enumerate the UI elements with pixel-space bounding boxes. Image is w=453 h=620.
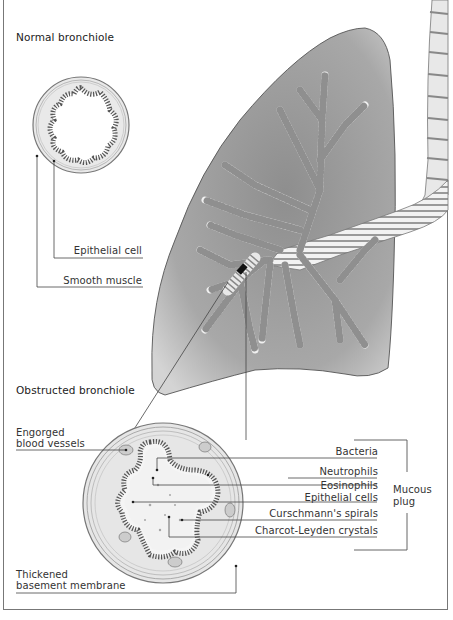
label-thickened-line1: Thickened — [16, 569, 68, 580]
normal-bronchiole-title: Normal bronchiole — [16, 32, 114, 43]
trachea — [420, 0, 448, 205]
label-charcot-leyden: Charcot-Leyden crystals — [220, 525, 378, 536]
label-epithelial-cell: Epithelial cell — [60, 245, 142, 256]
label-eosinophils: Eosinophils — [250, 480, 378, 491]
obstructed-bronchiole-title: Obstructed bronchiole — [16, 385, 135, 396]
label-mucous: Mucous — [393, 484, 432, 495]
label-neutrophils: Neutrophils — [250, 466, 378, 477]
label-engorged-line1: Engorged — [16, 427, 65, 438]
obstructed-bronchiole — [83, 423, 243, 583]
label-bacteria: Bacteria — [250, 446, 378, 457]
label-plug: plug — [393, 496, 415, 507]
label-epithelial-cells: Epithelial cells — [250, 492, 378, 503]
label-smooth-muscle: Smooth muscle — [50, 275, 142, 286]
label-engorged-line2: blood vessels — [16, 438, 85, 449]
normal-leader-lines — [37, 156, 143, 287]
normal-bronchiole — [33, 77, 129, 173]
label-thickened-line2: basement membrane — [16, 580, 126, 591]
label-curschmanns-spirals: Curschmann's spirals — [230, 508, 378, 519]
